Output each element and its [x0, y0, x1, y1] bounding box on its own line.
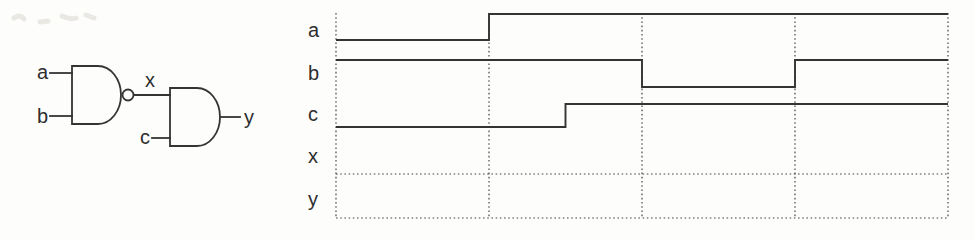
timing-gridlines — [336, 13, 948, 218]
timing-label-c: c — [308, 103, 318, 125]
timing-label-b: b — [308, 62, 319, 84]
and-gate-body — [170, 88, 220, 146]
nand-inverter-bubble — [123, 90, 134, 101]
waveform-b — [336, 60, 948, 87]
circuit-label-b: b — [37, 105, 48, 127]
circuit-label-a: a — [37, 61, 49, 83]
timing-label-a: a — [308, 19, 320, 41]
timing-label-y: y — [308, 188, 318, 210]
scan-artifact — [14, 15, 94, 22]
circuit-label-y: y — [244, 106, 254, 128]
nand-gate-body — [72, 66, 121, 124]
timing-diagram: a b c x y — [300, 0, 974, 240]
circuit-label-x: x — [145, 69, 155, 91]
timing-label-x: x — [308, 145, 318, 167]
timing-waveforms — [336, 14, 948, 218]
circuit-label-c: c — [140, 126, 150, 148]
logic-worksheet: a b x c y a b c x y — [0, 0, 974, 240]
logic-circuit-diagram: a b x c y — [0, 0, 300, 240]
